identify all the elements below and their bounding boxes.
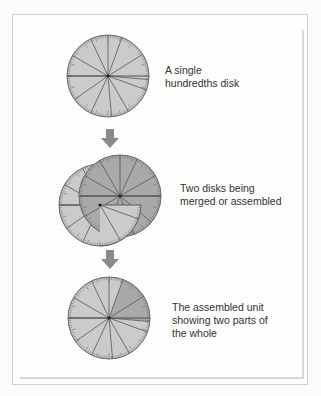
down-arrow-icon [101,250,119,269]
caption-line: merged or assembled [180,195,282,208]
caption-line: The assembled unit [172,301,268,314]
caption-single-disk: A single hundredths disk [165,64,239,90]
caption-line: A single [165,64,239,77]
hundredths-disk [68,277,150,359]
caption-line: hundredths disk [165,77,239,90]
caption-line: showing two parts of [172,314,268,327]
caption-line: Two disks being [180,182,282,195]
caption-assembled-unit: The assembled unit showing two parts of … [172,301,268,340]
caption-line: the whole [172,327,268,340]
caption-merging-disks: Two disks being merged or assembled [180,182,282,208]
hundredths-disk [67,35,149,117]
down-arrow-icon [101,129,119,148]
